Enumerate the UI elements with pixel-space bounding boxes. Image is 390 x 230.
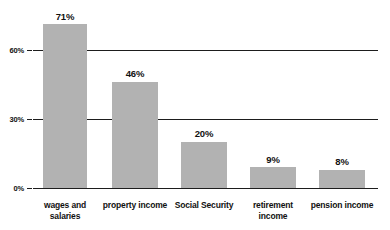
value-label-pension-income: 8% <box>319 156 365 167</box>
x-axis-line <box>33 188 378 189</box>
value-label-retirement-income: 9% <box>250 154 296 165</box>
category-label-line-1: retirement <box>234 200 312 211</box>
plot-area: 71% 46% 20% 9% 8% wages and salaries pro… <box>33 8 378 188</box>
ytick-label-0: 0% <box>0 184 24 193</box>
category-label-social-security: Social Security <box>165 200 243 211</box>
value-label-wages-and-salaries: 71% <box>43 11 87 22</box>
ytick-mark-60 <box>27 50 32 51</box>
category-label-line-2: income <box>234 211 312 222</box>
category-label-line-1: property income <box>96 200 174 211</box>
bar-chart: 71% 46% 20% 9% 8% wages and salaries pro… <box>0 0 390 230</box>
category-label-pension-income: pension income <box>303 200 381 211</box>
category-label-line-1: Social Security <box>165 200 243 211</box>
bar-retirement-income[interactable] <box>250 167 296 188</box>
ytick-label-60: 60% <box>0 46 24 55</box>
category-label-line-1: pension income <box>303 200 381 211</box>
bar-property-income[interactable] <box>112 82 158 188</box>
category-label-line-2: salaries <box>27 211 103 222</box>
ytick-mark-0 <box>27 188 32 189</box>
category-label-wages-and-salaries: wages and salaries <box>27 200 103 222</box>
value-label-social-security: 20% <box>181 128 227 139</box>
bar-pension-income[interactable] <box>319 170 365 189</box>
category-label-retirement-income: retirement income <box>234 200 312 222</box>
ytick-mark-30 <box>27 119 32 120</box>
category-label-line-1: wages and <box>27 200 103 211</box>
bar-wages-and-salaries[interactable] <box>43 24 87 188</box>
ytick-label-30: 30% <box>0 115 24 124</box>
bar-social-security[interactable] <box>181 142 227 188</box>
category-label-property-income: property income <box>96 200 174 211</box>
value-label-property-income: 46% <box>112 68 158 79</box>
